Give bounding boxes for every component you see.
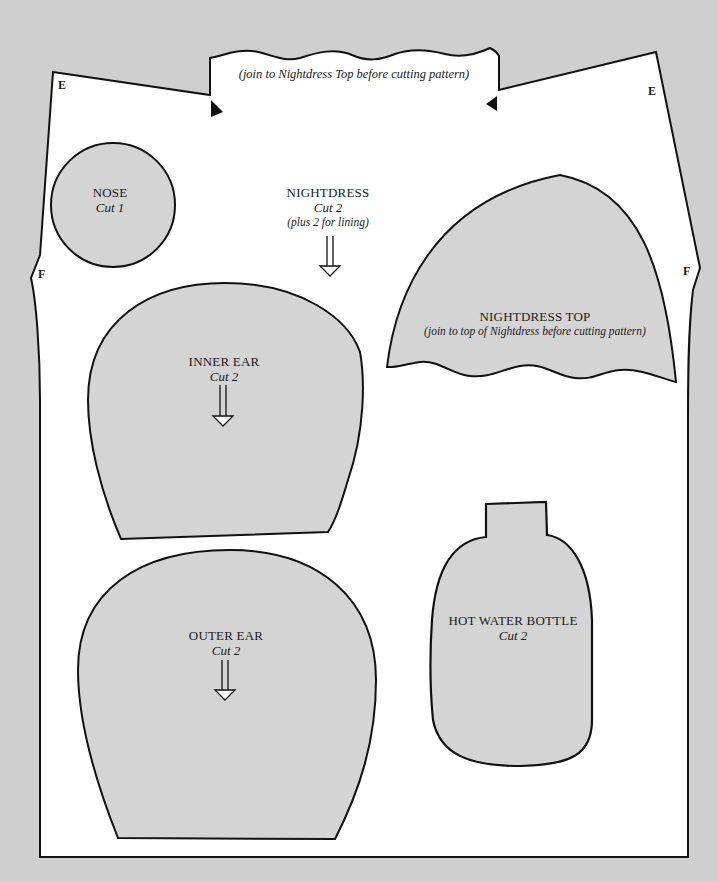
marker-f-left: F [38,267,45,282]
nightdress-label: NIGHTDRESS Cut 2 (plus 2 for lining) [287,186,370,229]
outer-ear-label: OUTER EAR Cut 2 [189,629,263,659]
pattern-sheet [0,0,718,881]
inner-ear-label: INNER EAR Cut 2 [189,355,260,385]
nose-label: NOSE Cut 1 [93,186,128,216]
marker-f-right: F [683,264,690,279]
hot-water-bottle-label: HOT WATER BOTTLE Cut 2 [448,614,577,644]
marker-e-right: E [648,84,656,99]
nightdress-join-note: (join to Nightdress Top before cutting p… [239,67,470,81]
marker-e-left: E [58,78,66,93]
nightdress-top-label: NIGHTDRESS TOP (join to top of Nightdres… [424,310,646,338]
